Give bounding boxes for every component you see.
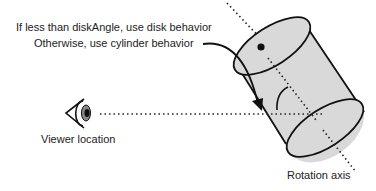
axis-dot <box>257 43 264 50</box>
cylinder-shape <box>225 6 372 168</box>
eye-icon <box>66 99 91 128</box>
rotation-axis-label: Rotation axis <box>287 169 351 182</box>
viewer-location-label: Viewer location <box>41 133 115 146</box>
annotation-line-1: If less than diskAngle, use disk behavio… <box>16 21 212 34</box>
annotation-line-2: Otherwise, use cylinder behavior <box>34 37 194 50</box>
